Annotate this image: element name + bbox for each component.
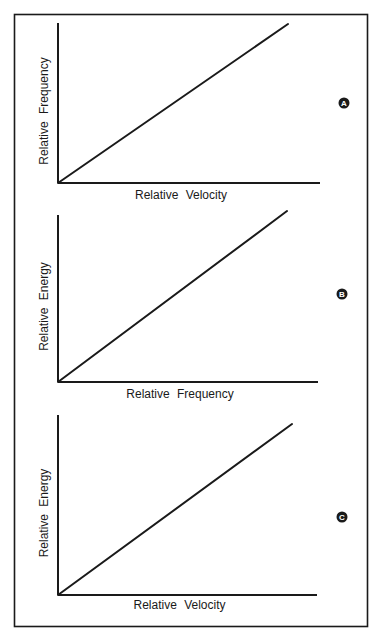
panel-c: Relative Velocity Relative Energy C <box>37 415 348 612</box>
panel-badge-label: C <box>339 513 345 522</box>
y-axis-title: Relative Frequency <box>37 57 51 164</box>
figure-frame <box>15 15 368 627</box>
x-axis-title: Relative Frequency <box>126 387 233 401</box>
panel-a: Relative Velocity Relative Frequency A <box>37 23 350 202</box>
series-line <box>58 24 288 183</box>
panel-b: Relative Frequency Relative Energy B <box>37 211 348 401</box>
panel-badge-label: A <box>341 99 347 108</box>
series-line <box>58 424 292 595</box>
x-axis-title: Relative Velocity <box>133 598 225 612</box>
x-axis-title: Relative Velocity <box>135 188 227 202</box>
y-axis-title: Relative Energy <box>37 262 51 351</box>
panel-badge-label: B <box>339 290 345 299</box>
series-line <box>58 211 287 382</box>
y-axis-title: Relative Energy <box>37 469 51 558</box>
figure: Relative Velocity Relative Frequency A R… <box>0 0 377 636</box>
